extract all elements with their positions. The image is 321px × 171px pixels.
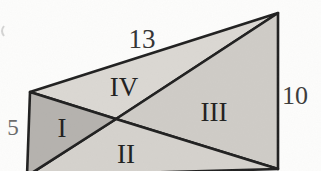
region-iii-label: III (201, 97, 228, 127)
region-ii-label: II (117, 139, 135, 169)
region-iv-label: IV (110, 72, 139, 102)
scan-artifact-mark (2, 26, 4, 36)
side-length-top-label: 13 (129, 24, 156, 54)
geometry-figure: 13 10 5 I II III IV (0, 0, 321, 171)
side-length-left-label: 5 (7, 115, 19, 140)
side-length-right-label: 10 (282, 81, 308, 110)
region-i-label: I (58, 113, 67, 143)
trapezoid-diagram-svg: 13 10 5 I II III IV (0, 0, 321, 171)
